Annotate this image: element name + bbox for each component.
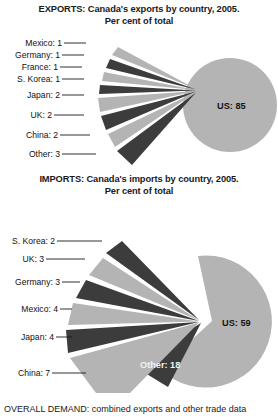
exports-chart-title: EXPORTS: Canada's exports by country, 20… [0, 0, 278, 27]
imports-label-south-korea: S. Korea: 2 [0, 236, 55, 246]
exports-title-line-1: EXPORTS: Canada's exports by country, 20… [8, 4, 270, 16]
footnote-text: OVERALL DEMAND: combined exports and oth… [0, 404, 278, 414]
imports-pie-plot: S. Korea: 2 UK: 3 Germany: 3 Mexico: 4 J… [0, 197, 278, 393]
exports-label-france: France: 1 [0, 62, 58, 72]
imports-label-other: Other: 18 [140, 360, 180, 370]
imports-chart-title: IMPORTS: Canada's imports by country, 20… [0, 168, 278, 197]
imports-label-germany: Germany: 3 [0, 277, 60, 287]
imports-label-uk: UK: 3 [0, 254, 44, 264]
exports-label-japan: Japan: 2 [0, 90, 60, 100]
exports-label-china: China: 2 [0, 130, 58, 140]
exports-title-line-2: Per cent of total [8, 16, 270, 28]
imports-pie-svg [0, 197, 278, 393]
imports-title-line-2: Per cent of total [8, 186, 270, 198]
imports-chart-block: IMPORTS: Canada's imports by country, 20… [0, 168, 278, 400]
exports-label-mexico: Mexico: 1 [0, 38, 62, 48]
imports-label-us: US: 59 [222, 318, 251, 328]
exports-chart-block: EXPORTS: Canada's exports by country, 20… [0, 0, 278, 168]
imports-label-china: China: 7 [0, 368, 50, 378]
exports-label-south-korea: S. Korea: 1 [0, 74, 60, 84]
exports-pie-plot: Mexico: 1 Germany: 1 France: 1 S. Korea:… [0, 27, 278, 167]
imports-title-line-1: IMPORTS: Canada's imports by country, 20… [8, 174, 270, 186]
footnote: OVERALL DEMAND: combined exports and oth… [0, 404, 278, 418]
imports-label-mexico: Mexico: 4 [0, 304, 58, 314]
exports-label-germany: Germany: 1 [0, 50, 60, 60]
exports-label-us: US: 85 [217, 101, 246, 111]
imports-label-japan: Japan: 4 [0, 332, 54, 342]
exports-label-uk: UK: 2 [0, 110, 52, 120]
exports-label-other: Other: 3 [0, 149, 60, 159]
